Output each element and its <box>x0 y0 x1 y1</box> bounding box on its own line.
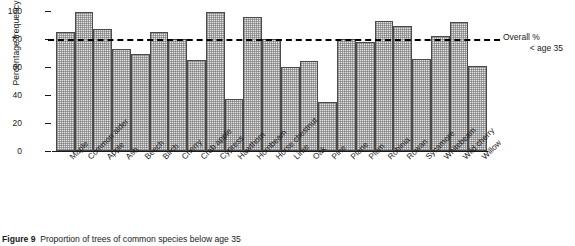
bar <box>168 39 187 151</box>
bar <box>356 42 375 151</box>
overall-reference-label: Overall % < age 35 <box>503 32 575 54</box>
y-tick-mark <box>45 123 51 124</box>
figure-caption: Figure 9 Proportion of trees of common s… <box>2 234 562 245</box>
reference-label-line1: Overall % <box>503 32 540 42</box>
y-tick-label: 60 <box>13 62 22 72</box>
bar <box>393 26 412 151</box>
caption-text: Proportion of trees of common species be… <box>40 234 241 244</box>
bar <box>131 54 150 151</box>
bar <box>75 12 94 151</box>
y-tick-mark <box>45 11 51 12</box>
y-tick-label: 20 <box>13 118 22 128</box>
caption-label: Figure 9 <box>2 234 35 244</box>
caption-divider <box>0 228 575 229</box>
y-tick-label: 40 <box>13 90 22 100</box>
bar <box>56 32 75 151</box>
figure-container: Percentage frequency 100806040200 Overal… <box>0 0 575 246</box>
y-tick-mark <box>45 67 51 68</box>
y-tick-mark <box>45 95 51 96</box>
y-tick-label: 100 <box>8 6 22 16</box>
y-axis-ticks: 100806040200 <box>0 0 52 160</box>
bar <box>150 32 169 151</box>
y-tick-label: 80 <box>13 34 22 44</box>
x-axis-labels: MapleCommon alderAppleAshBeechBirchCherr… <box>0 152 575 222</box>
overall-reference-line <box>48 39 500 41</box>
reference-label-line2: < age 35 <box>503 43 575 54</box>
bar <box>337 39 356 151</box>
